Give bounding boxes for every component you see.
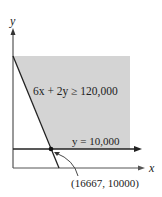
y-axis-label: y bbox=[10, 15, 15, 27]
intersection-point bbox=[49, 147, 54, 152]
inequality-label: 6x + 2y ≥ 120,000 bbox=[33, 86, 118, 98]
line-arrow-icon bbox=[134, 146, 142, 152]
line-label: y = 10,000 bbox=[72, 136, 119, 147]
y-axis-arrow-icon bbox=[11, 28, 16, 35]
x-axis-label: x bbox=[149, 162, 154, 174]
pointer-arrow bbox=[56, 153, 78, 176]
x-axis-arrow-icon bbox=[138, 166, 145, 171]
point-label: (16667, 10000) bbox=[71, 178, 139, 189]
graph bbox=[0, 0, 162, 197]
